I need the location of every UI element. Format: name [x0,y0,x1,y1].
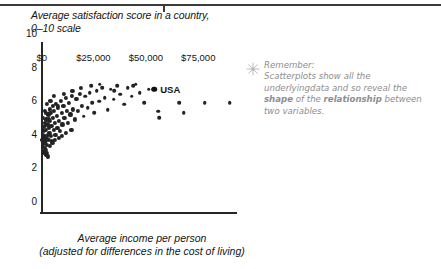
data-point [58,129,62,133]
data-point [112,98,116,102]
x-axis-caption: Average income per person (adjusted for … [22,232,262,258]
x-axis-tick-label: $50,000 [129,52,163,63]
data-point [86,106,90,110]
data-point [98,83,102,87]
x-axis-caption-line-1: Average income per person [78,232,207,244]
top-divider [0,4,441,6]
data-point [157,109,161,113]
y-axis-tick-label: 2 [31,162,37,173]
data-point [131,84,135,88]
data-point [73,118,77,122]
data-point [103,96,107,100]
figure-title-line-2: 0–10 scale [31,22,81,34]
note-emphasis-shape: shape [264,94,293,104]
data-point [49,134,53,138]
data-point [80,104,84,108]
data-point [59,99,63,103]
data-point [70,89,74,93]
data-point [62,116,66,120]
data-point [158,116,162,120]
note-seg-4: of the [293,94,321,104]
sparkle-icon [246,62,260,76]
data-point [78,92,82,96]
data-point [90,101,94,105]
data-point [48,99,52,103]
remember-note-heading: Remember: [264,60,436,71]
data-point [142,101,146,105]
data-point [92,111,96,115]
y-axis-tick-label: 0 [31,196,37,207]
data-point [55,114,59,118]
data-point [126,86,130,90]
data-point [88,91,92,95]
remember-note-body: Remember: Scatterplots show all the unde… [264,60,436,117]
data-point [138,91,142,95]
data-point [79,86,83,90]
data-point [60,134,64,138]
data-point [52,109,56,113]
data-point [60,123,64,127]
note-seg-1: Scatterplots show [264,71,344,81]
data-point [68,112,72,116]
data-point [203,101,207,105]
data-point [46,154,50,158]
data-point [52,94,56,98]
data-point [69,128,73,132]
data-point [61,104,65,108]
x-axis-tick-label: $0 [37,52,48,63]
note-emphasis-all: all [344,71,354,81]
y-axis-tick-label: 4 [31,128,37,139]
data-point [67,101,71,105]
data-point [74,97,78,101]
data-point-usa [151,87,157,93]
data-point [100,86,104,90]
data-point-label-usa: USA [160,84,180,95]
data-point [182,111,186,115]
data-point [147,88,151,92]
data-point [113,89,117,93]
note-seg-3: data and so reveal the [310,83,407,93]
y-axis-tick-label: 10 [26,28,37,39]
data-point [70,94,74,98]
data-point [45,102,49,106]
x-axis-tick-label: $75,000 [181,52,215,63]
data-point [66,121,70,125]
data-point [178,101,182,105]
data-point [59,111,63,115]
x-axis-line [40,212,237,214]
data-point [130,94,134,98]
data-point [64,131,68,135]
data-point [115,84,119,88]
figure-title-line-1: Average satisfaction score in a country, [31,9,209,21]
page-title: Average satisfaction score in a country,… [31,9,261,34]
data-point [95,89,99,93]
data-point [122,103,126,107]
x-axis-caption-line-2: (adjusted for differences in the cost of… [39,245,244,257]
data-point [90,84,94,88]
data-point [50,141,54,145]
data-point [106,108,110,112]
data-point [84,94,88,98]
x-axis-tick-label: $25,000 [76,52,110,63]
data-point [119,93,123,97]
scatter-plot-area: 0246810$0$25,000$50,000$75,000USA [41,44,236,212]
remember-note-text: Scatterplots show all the underlyingdata… [264,71,436,117]
data-point [82,114,86,118]
data-point [76,109,80,113]
note-emphasis-relationship: relationship [324,94,382,104]
data-point [71,107,75,111]
data-point [97,99,101,103]
data-point [228,101,232,105]
y-axis-tick-label: 6 [31,95,37,106]
